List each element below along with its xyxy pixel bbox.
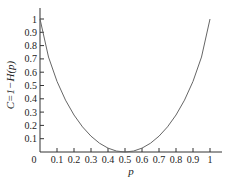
x-axis-label: p — [127, 165, 134, 177]
y-ticks: 0.10.20.30.40.50.60.70.80.91 — [25, 14, 45, 145]
y-tick-label: 0.8 — [25, 40, 38, 51]
y-axis-label: C=1−H(p) — [4, 60, 17, 109]
x-tick-label: 0.6 — [136, 154, 149, 165]
x-tick-label: 0.5 — [119, 154, 132, 165]
y-tick-label: 0.9 — [25, 27, 38, 38]
x-tick-label: 0.3 — [85, 154, 98, 165]
y-tick-label: 0.2 — [25, 120, 38, 131]
y-tick-label: 1 — [32, 14, 37, 25]
x-ticks: 00.10.20.30.40.50.60.70.80.91 — [32, 148, 213, 165]
x-tick-label: 1 — [208, 154, 213, 165]
y-tick-label: 0.5 — [25, 80, 38, 91]
chart: 00.10.20.30.40.50.60.70.80.91 0.10.20.30… — [0, 0, 231, 185]
x-tick-label: 0 — [32, 154, 37, 165]
x-tick-label: 0.4 — [102, 154, 115, 165]
y-tick-label: 0.3 — [25, 107, 38, 118]
y-tick-label: 0.6 — [25, 67, 38, 78]
y-tick-label: 0.1 — [25, 133, 38, 144]
x-tick-label: 0.1 — [51, 154, 64, 165]
capacity-curve — [40, 19, 210, 152]
x-tick-label: 0.2 — [68, 154, 81, 165]
x-tick-label: 0.7 — [153, 154, 166, 165]
y-tick-label: 0.7 — [25, 53, 38, 64]
y-tick-label: 0.4 — [25, 93, 38, 104]
x-tick-label: 0.9 — [187, 154, 200, 165]
axes — [40, 8, 222, 152]
x-tick-label: 0.8 — [170, 154, 183, 165]
